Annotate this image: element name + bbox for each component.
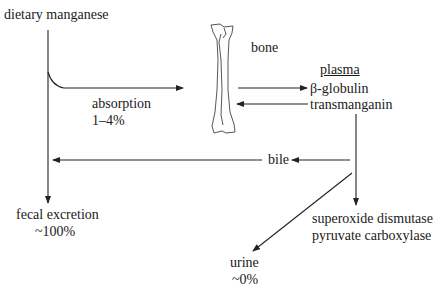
absorption-label: absorption (92, 96, 151, 112)
arrow-absorption (48, 72, 183, 88)
urine-label: urine (230, 255, 259, 271)
dietary-manganese-label: dietary manganese (4, 7, 109, 23)
diagram-arrows (0, 0, 448, 298)
bone-label: bone (251, 40, 278, 56)
superoxide-dismutase-label: superoxide dismutase (312, 211, 433, 227)
fecal-excretion-label: fecal excretion (16, 207, 99, 223)
absorption-percent: 1–4% (92, 113, 125, 129)
urine-percent: ~0% (232, 272, 258, 288)
bone-icon (211, 24, 235, 133)
fecal-excretion-percent: ~100% (35, 224, 75, 240)
manganese-metabolism-diagram: dietary manganese absorption 1–4% bone p… (0, 0, 448, 298)
plasma-header: plasma (320, 62, 360, 78)
transmanganin-label: transmanganin (310, 97, 392, 113)
pyruvate-carboxylase-label: pyruvate carboxylase (312, 228, 431, 244)
bile-label: bile (268, 152, 289, 168)
beta-globulin-label: β-globulin (310, 81, 368, 97)
